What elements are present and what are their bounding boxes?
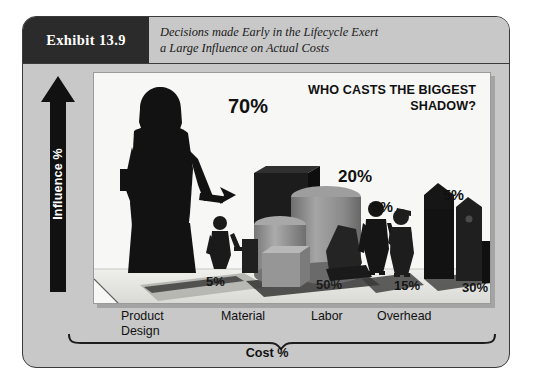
chart-title: WHO CASTS THE BIGGEST SHADOW? [308,82,476,114]
influence-value-overhead: 5% [443,187,464,203]
exhibit-screenshot: Exhibit 13.9 Decisions made Early in the… [0,0,534,386]
chart-title-line-1: WHO CASTS THE BIGGEST [308,82,476,98]
exhibit-caption-line-1: Decisions made Early in the Lifecycle Ex… [160,24,509,40]
silhouette-small-figure [206,216,246,269]
exhibit-body: Influence % [23,64,509,368]
exhibit-caption-line-2: a Large Influence on Actual Costs [160,40,509,56]
chart-plot-area: WHO CASTS THE BIGGEST SHADOW? 70% 20% 5%… [93,72,491,304]
influence-axis-arrow-icon [41,76,75,292]
cost-value-labor: 15% [394,278,420,293]
cost-value-material: 50% [316,277,342,292]
exhibit-header: Exhibit 13.9 Decisions made Early in the… [23,17,509,64]
exhibit-tag: Exhibit 13.9 [23,17,149,63]
exhibit-panel: Exhibit 13.9 Decisions made Early in the… [22,16,510,368]
category-label-overhead: Overhead [377,309,431,324]
cost-value-overhead: 30% [462,280,488,295]
silhouette-worker-2 [388,208,414,277]
category-label-labor: Labor [311,309,343,324]
cost-value-product-design: 5% [206,274,225,289]
influence-value-labor: 5% [372,199,393,215]
cost-axis-label: Cost % [23,346,510,360]
category-label-product-design-line-1: Product [121,309,164,324]
influence-value-product-design: 70% [228,95,268,118]
influence-value-material: 20% [338,167,372,187]
chart-title-line-2: SHADOW? [308,98,476,114]
exhibit-caption: Decisions made Early in the Lifecycle Ex… [149,17,509,63]
category-label-material: Material [221,309,265,324]
